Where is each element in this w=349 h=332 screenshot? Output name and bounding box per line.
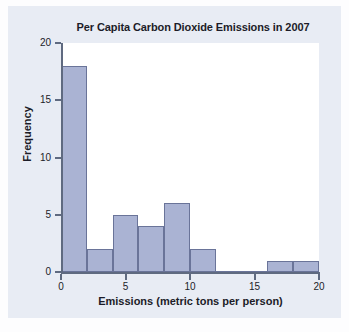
- x-axis-tick-label: 15: [242, 281, 268, 292]
- histogram-figure: Per Capita Carbon Dioxide Emissions in 2…: [0, 0, 349, 332]
- x-axis-tick-label: 0: [48, 281, 74, 292]
- y-axis-tick: [55, 99, 61, 101]
- y-axis-tick-label: 20: [21, 37, 51, 48]
- y-axis-tick-label: 0: [21, 266, 51, 277]
- y-axis-tick: [55, 271, 61, 273]
- y-axis-line: [61, 43, 63, 273]
- y-axis-title: Frequency: [21, 89, 33, 179]
- histogram-bar: [61, 66, 87, 272]
- x-axis-tick: [189, 274, 191, 280]
- histogram-bar: [293, 261, 319, 272]
- y-axis-tick: [55, 42, 61, 44]
- x-axis-tick: [60, 274, 62, 280]
- x-axis-title: Emissions (metric tons per person): [61, 295, 320, 307]
- histogram-bar: [138, 226, 164, 272]
- y-axis-tick-label: 5: [21, 209, 51, 220]
- histogram-bar: [164, 203, 190, 272]
- histogram-bar: [87, 249, 113, 272]
- y-axis-tick: [55, 214, 61, 216]
- histogram-bar: [190, 249, 216, 272]
- histogram-bar: [113, 215, 139, 272]
- histogram-bar: [267, 261, 293, 272]
- x-axis-tick: [125, 274, 127, 280]
- x-axis-tick-label: 5: [113, 281, 139, 292]
- x-axis-tick-label: 10: [177, 281, 203, 292]
- x-axis-tick-label: 20: [306, 281, 332, 292]
- y-axis-tick: [55, 157, 61, 159]
- x-axis-tick: [254, 274, 256, 280]
- x-axis-tick: [318, 274, 320, 280]
